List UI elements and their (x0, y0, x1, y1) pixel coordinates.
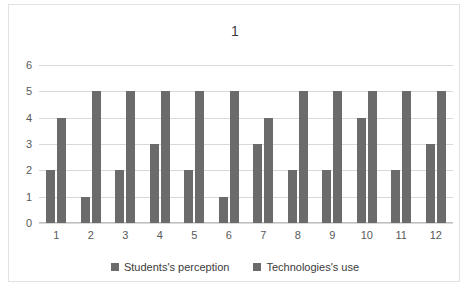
legend-swatch-icon (253, 263, 261, 271)
bar[interactable] (253, 144, 262, 223)
chart-title: 1 (9, 23, 461, 39)
bar[interactable] (299, 91, 308, 223)
bar[interactable] (391, 170, 400, 223)
legend-swatch-icon (111, 263, 119, 271)
bar[interactable] (322, 170, 331, 223)
x-axis-tick-label: 6 (212, 229, 247, 241)
chart-container: 1 6543210 123456789101112 Students's per… (8, 4, 460, 282)
bar-group (315, 65, 350, 223)
x-axis-tick-label: 9 (315, 229, 350, 241)
bar[interactable] (126, 91, 135, 223)
bar[interactable] (402, 91, 411, 223)
bar-group (143, 65, 178, 223)
x-axis-tick-label: 2 (74, 229, 109, 241)
bar[interactable] (57, 118, 66, 223)
y-axis-tick-label: 1 (26, 191, 32, 203)
y-axis-tick-label: 6 (26, 59, 32, 71)
y-axis-tick-label: 5 (26, 85, 32, 97)
x-axis-tick-label: 11 (384, 229, 419, 241)
bar-group (281, 65, 316, 223)
bar[interactable] (184, 170, 193, 223)
bar[interactable] (115, 170, 124, 223)
x-axis-tick-labels: 123456789101112 (39, 229, 453, 241)
bar[interactable] (81, 197, 90, 223)
bar[interactable] (437, 91, 446, 223)
x-axis-tick-label: 8 (281, 229, 316, 241)
bar[interactable] (150, 144, 159, 223)
bar-groups (39, 65, 453, 223)
legend-label: Technologies's use (266, 261, 359, 273)
legend-label: Students's perception (124, 261, 229, 273)
legend-item[interactable]: Students's perception (111, 261, 229, 273)
bar-group (74, 65, 109, 223)
bar[interactable] (426, 144, 435, 223)
bar[interactable] (219, 197, 228, 223)
y-axis-tick-label: 4 (26, 112, 32, 124)
bar[interactable] (368, 91, 377, 223)
legend-item[interactable]: Technologies's use (253, 261, 359, 273)
bar[interactable] (264, 118, 273, 223)
bar-group (108, 65, 143, 223)
y-axis-tick-label: 2 (26, 164, 32, 176)
bar[interactable] (333, 91, 342, 223)
x-axis-tick-label: 5 (177, 229, 212, 241)
y-axis-tick-label: 0 (26, 217, 32, 229)
x-axis-tick-label: 12 (419, 229, 454, 241)
x-axis-tick-label: 1 (39, 229, 74, 241)
bar-group (350, 65, 385, 223)
x-axis-tick-label: 3 (108, 229, 143, 241)
bar[interactable] (92, 91, 101, 223)
bar[interactable] (357, 118, 366, 223)
bar-group (212, 65, 247, 223)
plot-area: 6543210 (39, 65, 453, 223)
gridline (39, 223, 453, 224)
bar-group (246, 65, 281, 223)
bar-group (39, 65, 74, 223)
y-axis-tick-label: 3 (26, 138, 32, 150)
bar-group (177, 65, 212, 223)
bar-group (384, 65, 419, 223)
x-axis-tick-label: 10 (350, 229, 385, 241)
x-axis-tick-label: 7 (246, 229, 281, 241)
x-axis-tick-label: 4 (143, 229, 178, 241)
bar-group (419, 65, 454, 223)
bar[interactable] (230, 91, 239, 223)
bar[interactable] (161, 91, 170, 223)
bar[interactable] (288, 170, 297, 223)
bar[interactable] (46, 170, 55, 223)
bar[interactable] (195, 91, 204, 223)
chart-legend: Students's perceptionTechnologies's use (9, 261, 461, 273)
